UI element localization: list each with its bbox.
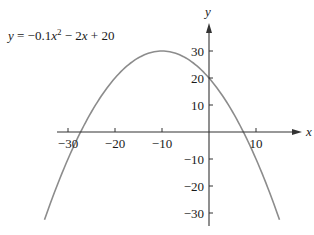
x-tick-label: 10 (250, 136, 263, 151)
x-axis-arrow-icon (292, 129, 302, 135)
x-tick-label: −30 (58, 136, 78, 151)
y-tick-label: −20 (184, 179, 204, 194)
y-axis-label: y (203, 4, 211, 19)
x-tick-label: −20 (105, 136, 125, 151)
equation-label: y = −0.1x2 − 2x + 20 (6, 27, 114, 43)
x-axis-label: x (305, 124, 312, 139)
y-tick-label: 20 (191, 71, 204, 86)
y-tick-label: 10 (191, 98, 204, 113)
y-axis-arrow-icon (206, 23, 212, 33)
y-tick-label: −10 (184, 152, 204, 167)
y-tick-label: 30 (191, 44, 204, 59)
parabola-chart: −30−20−1010302010−10−20−30 y = −0.1x2 − … (0, 0, 314, 235)
x-tick-label: −10 (152, 136, 172, 151)
y-tick-label: −30 (184, 206, 204, 221)
